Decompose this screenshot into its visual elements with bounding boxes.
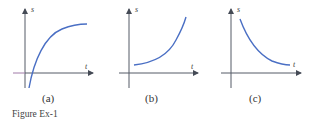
t-label-c: t <box>293 60 296 69</box>
panel-b-graph: s t <box>119 5 198 88</box>
s-label-a: s <box>31 5 34 14</box>
panel-a-label: (a) <box>42 92 54 104</box>
panel-c-graph: s t <box>221 5 301 88</box>
curve-a <box>29 24 87 88</box>
panel-b-label: (b) <box>145 92 158 104</box>
curve-c <box>240 19 290 65</box>
t-label-a: t <box>85 62 88 71</box>
figure-canvas: s t s t s t <box>0 0 314 124</box>
panel-c-label: (c) <box>249 92 261 104</box>
t-label-b: t <box>191 62 194 71</box>
s-label-c: s <box>237 5 240 14</box>
curve-b <box>134 17 186 65</box>
panel-a-graph: s t <box>13 5 93 88</box>
s-label-b: s <box>135 5 138 14</box>
figure-caption: Figure Ex-1 <box>12 109 58 119</box>
